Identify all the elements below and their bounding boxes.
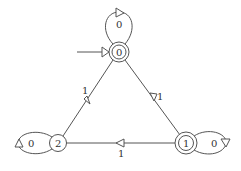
automaton-diagram: 1 1 1 0 0 0 0 1 [0,0,241,171]
state-2: 2 [50,135,67,152]
edge-0-to-2: 1 [63,60,113,136]
edge-label: 0 [116,19,122,30]
state-label: 0 [116,47,122,58]
edge-label: 0 [211,138,217,149]
edge-label: 1 [118,148,124,159]
start-arrow [77,47,109,57]
state-label: 1 [183,138,189,149]
edge-label: 1 [157,91,163,102]
state-1: 1 [175,132,197,154]
self-loop-2: 0 [15,132,52,153]
edge-label: 0 [28,138,34,149]
state-label: 2 [55,138,61,149]
edge-label: 1 [82,85,88,96]
edge-1-to-2: 1 [66,139,175,159]
self-loop-1: 0 [194,132,230,154]
self-loop-0: 0 [105,8,132,44]
state-0: 0 [109,42,129,62]
edge-0-to-1: 1 [125,60,180,135]
